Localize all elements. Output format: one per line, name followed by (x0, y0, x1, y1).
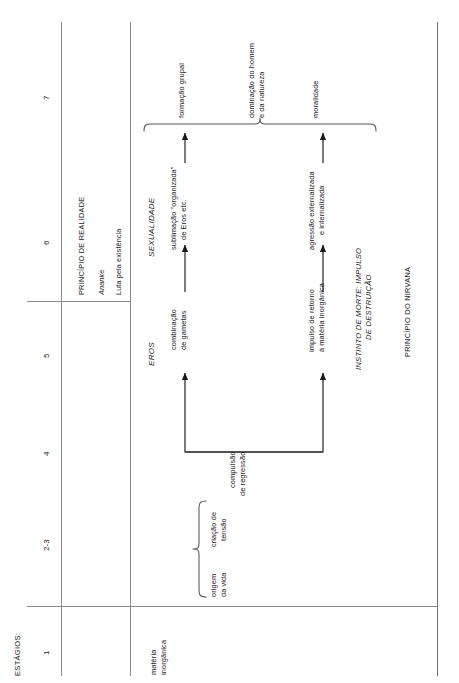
node-compulsao-regressao-line2: de regressão (239, 452, 248, 496)
node-materia-inorganica-line1: matéria (150, 650, 159, 675)
principle-box-note: Luta pela existência (115, 229, 124, 296)
stage-label-2-3: 2-3 (42, 539, 51, 551)
principle-do-nirvana: PRINCÍPIO DO NIRVANA (404, 267, 413, 357)
outcome-moralidade: moralidade (312, 80, 321, 118)
node-criacao-tensao-line2: tensão (220, 518, 229, 541)
stage-label-5: 5 (42, 353, 51, 358)
node-agressao-line1: agressão externalizada (308, 171, 317, 250)
stage-label-4: 4 (42, 451, 51, 456)
outcome-dominacao-line2: e da natureza (258, 72, 267, 119)
node-compulsao-regressao-line1: compulsão (229, 451, 238, 488)
diagram-canvas: ESTÁGIOS: 1 2-3 4 5 6 7 PRINCÍPIO DE REA… (0, 0, 459, 683)
outcome-formacao-grupal: formação grupal (178, 63, 187, 118)
principle-box-subtitle: Ananke (98, 270, 107, 295)
node-combinacao-gametas-line2: de gametas (180, 310, 189, 350)
principle-box-title: PRINCÍPIO DE REALIDADE (78, 197, 87, 295)
stage-label-1: 1 (42, 650, 51, 655)
node-sublimacao-line2: de Eros etc. (180, 199, 189, 240)
node-materia-inorganica-line2: inorgânica (160, 640, 169, 675)
node-combinacao-gametas-line1: combinação (170, 309, 179, 350)
node-origem-da-vida-line1: origem (210, 574, 219, 597)
connector-layer (0, 0, 459, 683)
heading-sexualidade: SEXUALIDADE (147, 198, 157, 257)
heading-eros: EROS (147, 342, 157, 366)
stage-label-6: 6 (42, 240, 51, 245)
heading-instinto-de-morte-line1: INSTINTO DE MORTE: IMPULSO (355, 248, 364, 370)
node-origem-da-vida-line2: da vida (220, 572, 229, 597)
stage-label-7: 7 (42, 95, 51, 100)
node-impulso-retorno-line1: impulso de retorno (308, 289, 317, 352)
node-impulso-retorno-line2: à matéria inorgânica (318, 283, 327, 352)
node-sublimacao-line1: sublimação "organizada" (170, 166, 179, 250)
node-agressao-line2: e internalizada (318, 185, 327, 235)
node-criacao-tensao-line1: criação de (210, 512, 219, 547)
axis-label-estagios: ESTÁGIOS: (14, 633, 23, 676)
heading-instinto-de-morte-line2: DE DESTRUIÇÃO (365, 274, 374, 340)
outcome-dominacao-line1: dominação do homem (248, 43, 257, 118)
